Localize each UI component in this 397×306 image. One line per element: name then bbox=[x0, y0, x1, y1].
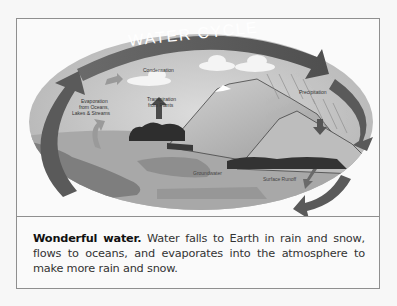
label-condensation: Condensation bbox=[143, 67, 174, 73]
label-groundwater: Groundwater bbox=[193, 170, 222, 176]
caption-lead: Wonderful water. bbox=[33, 232, 141, 245]
label-transpiration-2: from Plants bbox=[148, 102, 174, 108]
forest-right bbox=[227, 157, 347, 169]
water-cycle-illustration: WATER CYCLE Condensation Transpiration f… bbox=[17, 19, 379, 216]
label-surface-runoff: Surface Runoff bbox=[263, 176, 297, 182]
label-precipitation: Precipitation bbox=[299, 89, 327, 95]
figure-caption: Wonderful water. Water falls to Earth in… bbox=[33, 231, 365, 276]
label-evaporation-3: Lakes & Streams bbox=[72, 110, 111, 116]
groundwater-band bbox=[157, 187, 267, 199]
caption-divider bbox=[17, 216, 379, 217]
figure-frame: WATER CYCLE Condensation Transpiration f… bbox=[16, 18, 380, 289]
